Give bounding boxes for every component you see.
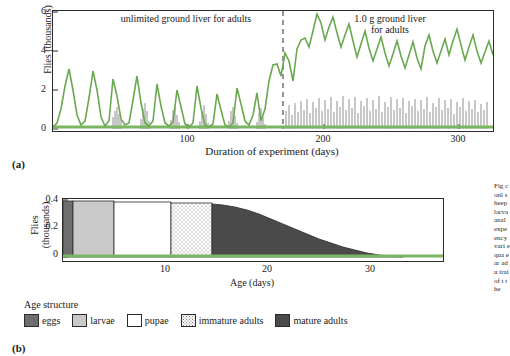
legend-label-eggs: eggs xyxy=(42,315,60,326)
legend-swatch-eggs xyxy=(24,314,39,327)
panel-b-xtick-20: 20 xyxy=(255,263,279,274)
legend-item-pupae: pupae xyxy=(127,314,169,327)
panel-a-ytick-6: 6 xyxy=(30,5,46,16)
legend-row: eggs larvae pupae immature adults mature… xyxy=(24,314,424,327)
legend-label-immature-adults: immature adults xyxy=(199,315,264,326)
panel-a-spikes-phase2 xyxy=(286,96,487,129)
panel-b-x-axis-label: Age (days) xyxy=(62,277,442,288)
panel-b-stage-pupae xyxy=(114,202,171,257)
legend-item-mature-adults: mature adults xyxy=(275,314,347,327)
panel-b-xtick-10: 10 xyxy=(153,263,177,274)
panel-b-xtick-30: 30 xyxy=(358,263,382,274)
legend-item-immature-adults: immature adults xyxy=(181,314,264,327)
panel-a-xtick-200: 200 xyxy=(308,133,338,144)
legend: Age structure eggs larvae pupae immature… xyxy=(24,299,424,327)
margin-caption-fragment: Fig conl sheep larva anal expe ency vari… xyxy=(494,182,510,294)
panel-a-annotation-limited: 1.0 g ground liverfor adults xyxy=(330,13,450,35)
panel-b-svg xyxy=(63,199,443,261)
panel-a-ytick-2: 2 xyxy=(30,83,46,94)
panel-a-ytick-0: 0 xyxy=(30,122,46,133)
legend-swatch-mature-adults xyxy=(275,314,290,327)
legend-item-eggs: eggs xyxy=(24,314,60,327)
panel-a-x-axis-label: Duration of experiment (days) xyxy=(52,145,492,157)
panel-a-annotation-unlimited: unlimited ground liver for adults xyxy=(96,13,276,24)
legend-swatch-immature-adults xyxy=(181,314,196,327)
panel-b-stage-eggs xyxy=(63,201,73,257)
panel-a: Flies (thousands) 6 4 2 0 xyxy=(0,0,508,175)
panel-b-ytick-02: 0.2 xyxy=(36,220,58,231)
legend-label-larvae: larvae xyxy=(90,315,114,326)
panel-b-ytick-04: 0.4 xyxy=(36,193,58,204)
panel-b-tag: (b) xyxy=(12,342,25,354)
legend-swatch-pupae xyxy=(127,314,142,327)
panel-b-stage-mature-adults xyxy=(212,204,403,257)
panel-b-stage-larvae xyxy=(73,201,114,257)
panel-a-tag: (a) xyxy=(12,158,25,170)
legend-label-mature-adults: mature adults xyxy=(293,315,347,326)
legend-swatch-larvae xyxy=(72,314,87,327)
panel-b-plot-area xyxy=(62,198,444,262)
panel-b: Flies(thousands) 0.4 0.2 0 xyxy=(0,176,508,356)
panel-b-stage-immature-adults xyxy=(171,203,212,257)
legend-item-larvae: larvae xyxy=(72,314,114,327)
panel-b-ytick-0: 0 xyxy=(36,248,58,259)
panel-a-xtick-100: 100 xyxy=(172,133,202,144)
legend-label-pupae: pupae xyxy=(145,315,169,326)
panel-a-xtick-300: 300 xyxy=(443,133,473,144)
legend-title: Age structure xyxy=(24,299,424,310)
panel-a-ytick-4: 4 xyxy=(30,44,46,55)
